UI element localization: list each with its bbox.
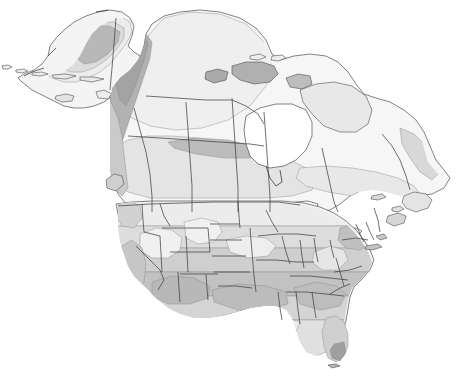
border-new-england-b <box>366 222 374 240</box>
aleutian-isle-2 <box>16 69 28 73</box>
long-island <box>365 244 382 250</box>
map-canvas <box>2 10 450 368</box>
border-maine-vert <box>374 208 380 232</box>
florida-peninsula <box>322 316 348 368</box>
us-lobe-dark-california <box>120 240 146 292</box>
newfoundland-island <box>402 192 432 212</box>
nova-scotia <box>386 213 406 226</box>
us-lobe-light-gulf-coast <box>226 314 300 336</box>
prince-edward-island <box>392 206 404 212</box>
cape-cod <box>376 234 387 240</box>
north-america-thematic-map <box>0 0 458 382</box>
united-states-region <box>112 198 387 368</box>
anticosti-island <box>371 194 386 200</box>
florida-keys <box>328 364 340 368</box>
map-container <box>0 0 458 382</box>
aleutian-isle-1 <box>2 65 12 69</box>
atlantic-canada <box>371 192 432 226</box>
